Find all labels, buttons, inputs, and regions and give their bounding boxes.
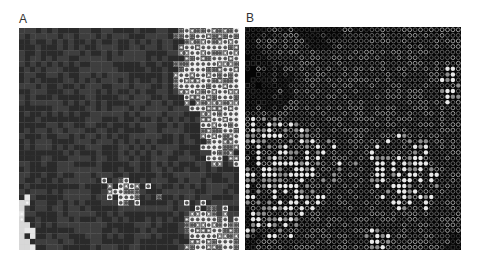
panel-a-grid-image — [19, 28, 239, 250]
panel-b-label: B — [246, 12, 254, 24]
panel-a-label: A — [19, 13, 27, 25]
panel-b-mosaic — [245, 27, 461, 250]
panel-b-grid-image — [245, 27, 461, 250]
panel-a-mosaic — [19, 28, 239, 250]
